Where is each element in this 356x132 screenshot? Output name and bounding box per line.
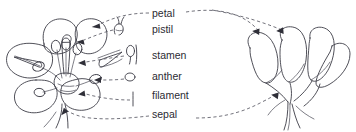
- diagram-canvas: petal pistil stamen anther filament sepa…: [0, 0, 356, 132]
- flower-parts-diagram: petal pistil stamen anther filament sepa…: [0, 0, 356, 132]
- stamen-glyph: [127, 45, 137, 64]
- leader-anther-left: [102, 79, 124, 80]
- leader-petal-right-a: [186, 10, 258, 30]
- pistil-glyph: [114, 17, 124, 35]
- anther-glyph: [125, 73, 135, 81]
- leader-sepal-left: [66, 110, 149, 119]
- flower-side-view: [248, 27, 350, 130]
- leader-filament-left: [86, 94, 130, 100]
- label-petal: petal: [152, 7, 175, 19]
- label-pistil: pistil: [152, 23, 173, 35]
- leader-pistil-left: [84, 30, 113, 40]
- leader-petal-right-b: [212, 10, 282, 30]
- label-sepal: sepal: [152, 108, 177, 120]
- label-anther: anther: [152, 70, 182, 82]
- label-stamen: stamen: [152, 49, 187, 61]
- leader-sepal-right: [196, 94, 276, 118]
- leader-petal-left: [100, 13, 149, 24]
- label-filament: filament: [152, 89, 189, 101]
